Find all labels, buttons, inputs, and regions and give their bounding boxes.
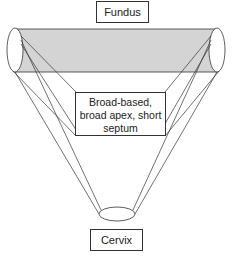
cervical-os-ellipse [99, 207, 135, 221]
septum-description-box: Broad-based, broad apex, short septum [75, 92, 166, 136]
septum-description-line-3: septum [103, 122, 137, 135]
left-cornu-ellipse [7, 28, 23, 72]
septum-description-line-1: Broad-based, [89, 96, 152, 109]
fundus-label: Fundus [96, 1, 149, 23]
septum-description-line-2: broad apex, short [80, 109, 162, 122]
right-cornu-ellipse [209, 28, 225, 72]
cervix-label: Cervix [90, 229, 143, 251]
